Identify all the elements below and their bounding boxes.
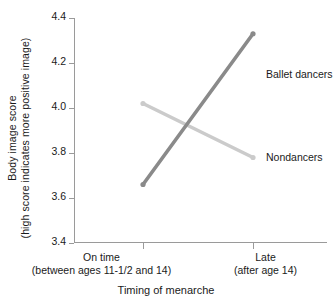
- series-plot: [74, 18, 327, 243]
- x-category-label: On time: [0, 251, 203, 264]
- y-tick-label: 3.6: [51, 190, 66, 202]
- y-axis-title-line2: (high score indicates more positive imag…: [19, 18, 32, 258]
- data-point-ballet-on-time: [140, 182, 145, 187]
- y-tick-label: 3.8: [51, 145, 66, 157]
- x-category-late: Late (after age 14): [199, 251, 332, 276]
- x-category-sublabel: (between ages 11-1/2 and 14): [0, 264, 203, 277]
- y-tick-label: 4.0: [51, 100, 66, 112]
- x-axis-title: Timing of menarche: [0, 284, 332, 296]
- x-tick-late: [253, 243, 254, 249]
- series-label-ballet-dancers: Ballet dancers: [266, 68, 333, 80]
- plot-area: 4.4 4.2 4.0 3.8 3.6 3.4: [74, 18, 327, 243]
- line-ballet-dancers: [143, 34, 253, 185]
- data-point-nondancers-on-time: [140, 101, 145, 106]
- series-label-nondancers: Nondancers: [266, 151, 323, 163]
- y-axis-title: Body image score (high score indicates m…: [6, 18, 46, 258]
- y-axis-title-line1: Body image score: [6, 18, 19, 258]
- data-point-ballet-late: [250, 31, 255, 36]
- y-tick-label: 3.4: [51, 235, 66, 247]
- data-point-nondancers-late: [250, 155, 255, 160]
- x-category-sublabel: (after age 14): [199, 264, 332, 277]
- x-tick-on-time: [143, 243, 144, 249]
- y-tick-label: 4.2: [51, 55, 66, 67]
- y-tick-label: 4.4: [51, 10, 66, 22]
- x-category-label: Late: [199, 251, 332, 264]
- x-category-on-time: On time (between ages 11-1/2 and 14): [0, 251, 203, 276]
